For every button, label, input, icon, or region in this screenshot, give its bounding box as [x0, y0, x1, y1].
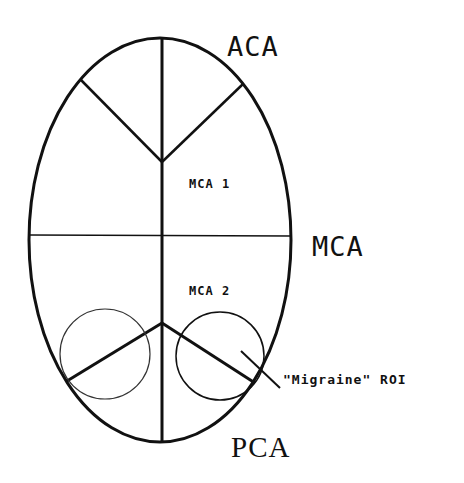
- roi-circle-right: [176, 312, 264, 400]
- pca-left-boundary: [67, 323, 162, 381]
- roi-pointer: [241, 351, 280, 388]
- label-migraine-roi: "Migraine" ROI: [283, 373, 407, 386]
- mca-divider: [30, 235, 291, 236]
- label-mca: MCA: [312, 233, 364, 260]
- aca-right-boundary: [162, 84, 243, 162]
- aca-left-boundary: [81, 80, 162, 162]
- label-mca2: MCA 2: [189, 285, 230, 297]
- roi-circle-left: [60, 309, 150, 399]
- label-aca: ACA: [227, 33, 279, 60]
- label-mca1: MCA 1: [189, 178, 230, 190]
- brain-territory-diagram: [0, 0, 464, 483]
- label-pca: PCA: [231, 433, 290, 462]
